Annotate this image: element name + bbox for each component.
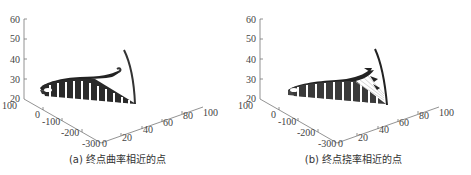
z-tick-50: 50 xyxy=(10,34,20,44)
plot-3d-b xyxy=(236,0,471,175)
z-tick-30: 30 xyxy=(246,75,256,85)
x-tick-100: 100 xyxy=(439,108,454,118)
y-tick-neg200: -200 xyxy=(297,128,315,138)
x-tick-80: 80 xyxy=(419,111,429,121)
y-tick-0: 0 xyxy=(35,110,40,120)
plot-3d-a xyxy=(0,0,235,175)
y-tick-100: 100 xyxy=(238,101,253,111)
z-tick-40: 40 xyxy=(10,55,20,65)
x-tick-0: 0 xyxy=(102,139,107,149)
z-tick-50: 50 xyxy=(246,34,256,44)
x-tick-100: 100 xyxy=(203,108,218,118)
y-tick-100: 100 xyxy=(2,101,17,111)
x-tick-20: 20 xyxy=(358,133,368,143)
y-tick-neg200: -200 xyxy=(61,128,79,138)
x-tick-40: 40 xyxy=(143,125,153,135)
x-tick-20: 20 xyxy=(122,133,132,143)
y-tick-neg100: -100 xyxy=(278,117,296,127)
x-tick-60: 60 xyxy=(399,118,409,128)
data-surface-a xyxy=(40,50,136,106)
z-tick-60: 60 xyxy=(10,15,20,25)
x-tick-40: 40 xyxy=(379,125,389,135)
y-tick-neg300: -300 xyxy=(318,139,336,149)
plot-panel-a: 60 50 40 30 20 100 0 -100 -200 -300 0 20… xyxy=(0,0,235,175)
x-tick-0: 0 xyxy=(338,139,343,149)
z-tick-60: 60 xyxy=(246,15,256,25)
y-tick-0: 0 xyxy=(271,110,276,120)
x-tick-80: 80 xyxy=(183,111,193,121)
caption-b: (b) 终点挠率相近的点 xyxy=(236,151,471,166)
z-tick-40: 40 xyxy=(246,55,256,65)
data-surface-b xyxy=(288,49,387,105)
z-tick-30: 30 xyxy=(10,75,20,85)
x-tick-60: 60 xyxy=(163,118,173,128)
caption-a: (a) 终点曲率相近的点 xyxy=(0,151,235,166)
plot-panel-b: 60 50 40 30 20 100 0 -100 -200 -300 0 20… xyxy=(236,0,471,175)
y-tick-neg300: -300 xyxy=(82,139,100,149)
y-tick-neg100: -100 xyxy=(42,117,60,127)
